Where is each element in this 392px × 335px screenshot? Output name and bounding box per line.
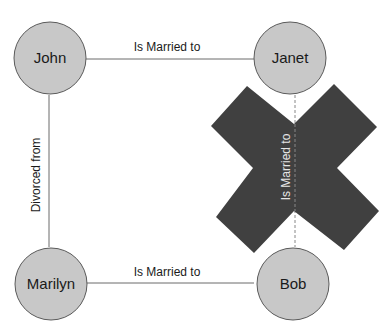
edge-label-janet-bob: Is Married to [279,133,293,200]
node-janet-label: Janet [272,49,310,66]
node-marilyn-label: Marilyn [27,275,75,292]
node-janet[interactable]: Janet [254,22,326,94]
node-john-label: John [34,49,67,66]
edge-label-marilyn-bob: Is Married to [134,265,201,279]
relationship-diagram: John Janet Marilyn Bob Is Married to Is … [0,0,392,335]
node-john[interactable]: John [14,22,86,94]
node-marilyn[interactable]: Marilyn [15,248,87,320]
edge-label-john-janet: Is Married to [134,40,201,54]
node-bob[interactable]: Bob [257,248,329,320]
edge-label-john-marilyn: Divorced from [29,138,43,213]
node-bob-label: Bob [280,275,307,292]
